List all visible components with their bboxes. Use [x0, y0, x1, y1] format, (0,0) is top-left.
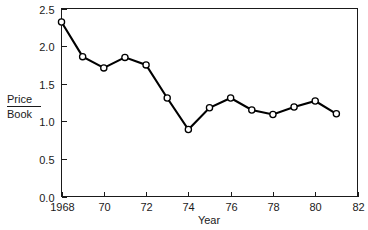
data-point-marker [291, 104, 297, 110]
data-point-marker [270, 111, 276, 117]
x-axis-tick-label: 74 [182, 201, 194, 213]
y-axis-tick-label: 0.5 [39, 154, 54, 166]
data-point-marker [249, 107, 255, 113]
price-to-book-line-chart: 0.00.51.01.52.02.5 196870727476788082 Pr… [0, 0, 368, 230]
x-axis-tick-label: 70 [98, 201, 110, 213]
data-point-marker [143, 62, 149, 68]
data-point-marker [164, 95, 170, 101]
chart-container: 0.00.51.01.52.02.5 196870727476788082 Pr… [0, 0, 368, 230]
x-axis-tick-label: 1968 [50, 201, 74, 213]
x-axis-tick-label: 76 [225, 201, 237, 213]
data-point-marker [206, 105, 212, 111]
y-axis-label-numerator: Price [7, 93, 32, 105]
data-point-marker [185, 126, 191, 132]
chart-background [0, 0, 368, 230]
data-point-marker [333, 111, 339, 117]
y-axis-tick-label: 2.0 [39, 41, 54, 53]
x-axis-title: Year [198, 214, 221, 226]
y-axis-label-denominator: Book [7, 108, 33, 120]
data-point-marker [58, 19, 64, 25]
data-point-marker [312, 98, 318, 104]
y-axis-tick-label: 1.0 [39, 116, 54, 128]
data-point-marker [122, 54, 128, 60]
x-axis-tick-label: 80 [309, 201, 321, 213]
x-axis-tick-label: 78 [267, 201, 279, 213]
y-axis-tick-label: 1.5 [39, 79, 54, 91]
data-point-marker [101, 65, 107, 71]
x-axis-tick-label: 72 [140, 201, 152, 213]
data-point-marker [228, 95, 234, 101]
data-point-marker [80, 54, 86, 60]
y-axis-tick-label: 2.5 [39, 4, 54, 16]
x-axis-tick-label: 82 [352, 201, 364, 213]
